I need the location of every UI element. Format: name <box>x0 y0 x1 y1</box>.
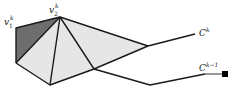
diagram-canvas: v1k v2k Ck Ck−1 <box>0 0 234 92</box>
label-ck: Ck <box>199 26 210 38</box>
polygon-diagram: v1k v2k Ck Ck−1 <box>0 0 234 92</box>
curve-ck <box>148 34 195 46</box>
curve-ck-minus-1 <box>94 69 205 85</box>
label-v1: v1k <box>4 14 14 29</box>
endpoint-square <box>222 71 228 77</box>
label-v2: v2k <box>49 2 59 17</box>
label-ck-minus-1: Ck−1 <box>199 61 218 73</box>
